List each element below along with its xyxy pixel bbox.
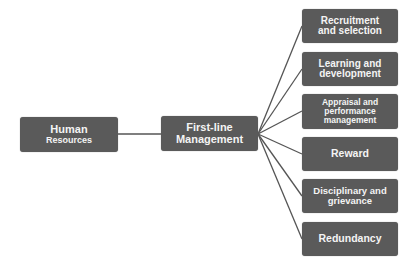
node-reward: Reward [302, 137, 398, 171]
node-label-line3: management [322, 116, 378, 125]
node-label-line2: development [319, 69, 382, 80]
node-label-line2: grievance [313, 196, 386, 206]
connector-flm-recruitment [258, 26, 302, 134]
node-learning-and-development: Learning and development [302, 52, 398, 86]
node-appraisal-and-performance-management: Appraisal and performance management [302, 94, 398, 129]
node-label-line1: Reward [331, 148, 369, 159]
node-label-line1: Redundancy [318, 233, 381, 244]
node-label-line2: Management [176, 134, 243, 146]
node-human-resources: Human Resources [20, 117, 118, 152]
node-label-line2: Resources [46, 136, 92, 145]
node-label-line2: and selection [318, 26, 382, 37]
node-disciplinary-and-grievance: Disciplinary and grievance [302, 179, 398, 213]
node-label-line1: Human [46, 124, 92, 136]
connector-flm-appraisal [258, 111, 302, 134]
node-recruitment-and-selection: Recruitment and selection [302, 9, 398, 43]
node-first-line-management: First-line Management [161, 116, 258, 151]
node-label-line1: First-line [176, 122, 243, 134]
node-redundancy: Redundancy [302, 222, 398, 256]
